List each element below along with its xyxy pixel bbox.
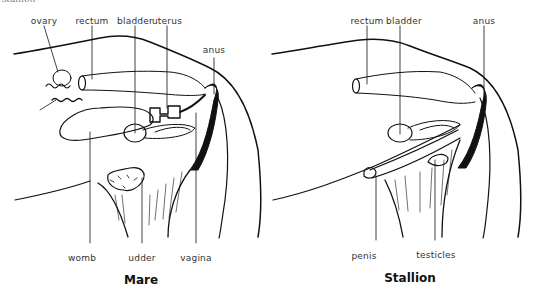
label-testicles: testicles (416, 250, 455, 260)
label-rectum: rectum (75, 16, 108, 26)
stallion-diagram (272, 26, 521, 240)
label-anus: anus (203, 45, 225, 55)
label-uterus: uterus (152, 16, 182, 26)
mare-thigh (98, 170, 190, 237)
label-stallion-bladder: bladder (386, 16, 422, 26)
udder-shape (108, 168, 144, 191)
oviduct-coil (52, 99, 82, 102)
uterus-shape (150, 106, 180, 122)
mare-diagram (14, 26, 261, 243)
stallion-title: Stallion (384, 271, 436, 285)
mare-hind-leg (218, 98, 228, 238)
label-vagina: vagina (180, 253, 211, 263)
penis-shape (370, 130, 460, 178)
label-bladder: bladder (117, 16, 153, 26)
mare-title: Mare (124, 273, 158, 287)
stallion-rectum-shape (356, 71, 475, 103)
label-stallion-rectum: rectum (350, 16, 383, 26)
label-udder: udder (128, 253, 155, 263)
stallion-anus-shape (458, 85, 486, 168)
mare-belly-outline (15, 181, 90, 200)
anatomy-diagram (0, 0, 546, 287)
stallion-belly-outline (273, 125, 460, 200)
label-womb: womb (68, 253, 96, 263)
label-stallion-anus: anus (473, 16, 495, 26)
label-ovary: ovary (31, 16, 57, 26)
womb-shape (60, 107, 153, 141)
rectum-shape (82, 71, 205, 95)
label-penis: penis (351, 251, 376, 261)
testicles-shape (428, 155, 448, 166)
